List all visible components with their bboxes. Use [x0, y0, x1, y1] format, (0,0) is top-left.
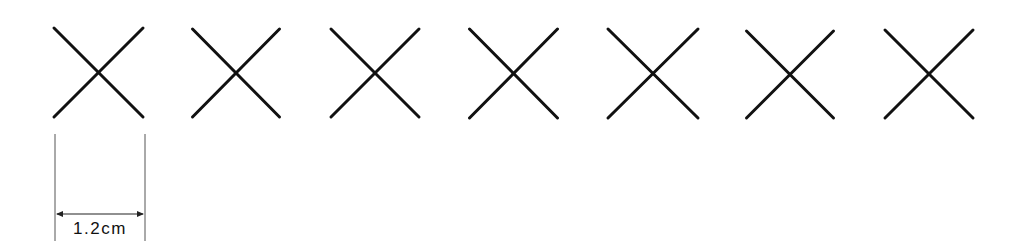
- cross-mark-icon: [193, 29, 280, 117]
- cross-mark-icon: [331, 29, 419, 117]
- cross-mark-icon: [885, 30, 973, 118]
- cross-marks-diagram: [0, 0, 1034, 241]
- cross-mark-icon: [470, 29, 558, 118]
- cross-mark-icon: [54, 28, 143, 117]
- dimension-label: 1.2cm: [55, 219, 145, 239]
- cross-mark-icon: [747, 31, 834, 118]
- cross-mark-icon: [608, 29, 698, 118]
- cross-marks: [54, 28, 973, 118]
- arrowhead-right-icon: [137, 211, 144, 217]
- arrowhead-left-icon: [56, 211, 63, 217]
